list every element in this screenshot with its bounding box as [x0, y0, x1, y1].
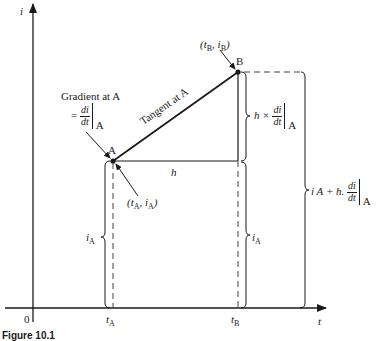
- ia-right-brace: [241, 162, 250, 308]
- point-b-coords: (tB, iB): [200, 39, 230, 50]
- total-label: i A + h. di dt A: [311, 179, 362, 205]
- rise-brace: [241, 72, 250, 161]
- y-axis-label: i: [20, 6, 23, 17]
- a-coord-pointer: [116, 164, 138, 196]
- ta-sub: A: [109, 319, 115, 328]
- eval-bar: A: [92, 103, 95, 129]
- eval-point: A: [363, 196, 371, 207]
- numerator: di: [272, 105, 282, 117]
- equals-sign: =: [71, 109, 77, 121]
- gradient-pointer: [86, 132, 110, 158]
- eval-bar: A: [359, 179, 362, 205]
- ia-right-label: iA: [252, 232, 261, 243]
- ta-sub: A: [134, 202, 140, 211]
- tangent-line: [113, 72, 238, 161]
- rise-label: h × di dt A: [254, 103, 287, 129]
- h-label: h: [171, 167, 177, 178]
- derivative-fraction: di dt: [80, 105, 90, 127]
- point-b-label: B: [236, 56, 243, 67]
- ib-sub: B: [221, 44, 226, 53]
- rise-fraction: di dt: [272, 105, 282, 127]
- total-prefix: i A + h.: [311, 185, 344, 197]
- denominator: dt: [81, 117, 89, 128]
- ia-left-sub: A: [89, 237, 95, 246]
- numerator: di: [347, 181, 357, 193]
- tb-sub: B: [207, 44, 212, 53]
- h-times: h ×: [254, 109, 270, 121]
- gradient-expression: = di dt A: [71, 103, 95, 129]
- point-a: [110, 158, 115, 163]
- eval-point: A: [288, 120, 296, 131]
- ia-left-label: iA: [86, 232, 95, 243]
- ia-sub: A: [148, 202, 154, 211]
- denominator: dt: [348, 193, 356, 204]
- origin-label: 0: [24, 314, 30, 325]
- numerator: di: [80, 105, 90, 117]
- eval-point: A: [96, 120, 104, 131]
- point-a-coords: (tA, iA): [127, 197, 158, 208]
- gradient-title: Gradient at A: [61, 91, 120, 102]
- point-a-label: A: [108, 145, 116, 156]
- tb-tick-label: tB: [231, 314, 239, 325]
- ta-tick-label: tA: [106, 314, 115, 325]
- point-b: [235, 69, 240, 74]
- figure-caption: Figure 10.1: [2, 331, 55, 341]
- tb-sub: B: [234, 319, 239, 328]
- x-axis-label: t: [318, 316, 321, 327]
- ia-left-brace: [101, 161, 110, 308]
- total-fraction: di dt: [347, 181, 357, 203]
- total-brace: [300, 72, 309, 308]
- eval-bar: A: [284, 103, 287, 129]
- ia-right-sub: A: [255, 237, 261, 246]
- denominator: dt: [273, 117, 281, 128]
